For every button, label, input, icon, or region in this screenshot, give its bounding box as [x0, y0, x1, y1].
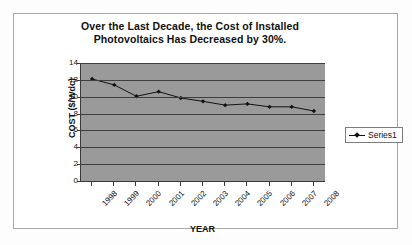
diamond-marker-icon	[349, 132, 365, 139]
x-tick-mark-1998	[91, 182, 92, 186]
x-tick-mark-2005	[246, 182, 247, 186]
gridline-2	[81, 164, 325, 165]
x-tick-mark-2003	[202, 182, 203, 186]
x-tick-label-2001: 2001	[167, 189, 186, 208]
x-tick-mark-2004	[224, 182, 225, 186]
gridline-12	[81, 80, 325, 81]
x-axis-title: YEAR	[80, 224, 325, 234]
y-tick-label-2: 2	[64, 160, 78, 168]
x-tick-mark-2001	[158, 182, 159, 186]
data-point-2001	[156, 89, 160, 93]
x-tick-mark-2007	[291, 182, 292, 186]
data-point-2004	[223, 103, 227, 107]
y-tick-label-8: 8	[64, 110, 78, 118]
data-point-2006	[267, 105, 271, 109]
data-point-2007	[290, 105, 294, 109]
x-tick-label-1999: 1999	[122, 189, 141, 208]
x-tick-label-2007: 2007	[300, 189, 319, 208]
x-tick-label-2003: 2003	[211, 189, 230, 208]
chart-title-line-1: Over the Last Decade, the Cost of Instal…	[40, 20, 340, 33]
plot-area	[80, 63, 325, 182]
x-tick-mark-2008	[313, 182, 314, 186]
plot-wrapper: COST ($/Wdc) 14121086420 199819992000200…	[67, 63, 365, 198]
x-tick-mark-2000	[135, 182, 136, 186]
chart-title-line-2: Photovoltaics Has Decreased by 30%.	[40, 33, 340, 46]
x-tick-mark-1999	[113, 182, 114, 186]
gridline-4	[81, 147, 325, 148]
x-tick-mark-2002	[180, 182, 181, 186]
gridline-10	[81, 97, 325, 98]
y-tick-label-14: 14	[64, 59, 78, 67]
y-tick-label-6: 6	[64, 126, 78, 134]
gridline-14	[81, 63, 325, 64]
x-tick-label-2008: 2008	[322, 189, 341, 208]
chart-legend[interactable]: Series1	[345, 127, 403, 143]
x-tick-label-2006: 2006	[278, 189, 297, 208]
y-tick-label-4: 4	[64, 143, 78, 151]
x-tick-label-2004: 2004	[233, 189, 252, 208]
y-tick-label-12: 12	[64, 76, 78, 84]
chart-title: Over the Last Decade, the Cost of Instal…	[40, 20, 340, 46]
data-point-1999	[112, 83, 116, 87]
legend-label-series1: Series1	[368, 130, 397, 140]
y-tick-label-10: 10	[64, 93, 78, 101]
data-point-2003	[201, 99, 205, 103]
x-tick-mark-2006	[269, 182, 270, 186]
data-point-2005	[245, 102, 249, 106]
chart-frame: Over the Last Decade, the Cost of Instal…	[13, 13, 398, 229]
x-tick-label-2000: 2000	[145, 189, 164, 208]
gridline-8	[81, 114, 325, 115]
x-tick-label-2005: 2005	[256, 189, 275, 208]
gridline-6	[81, 130, 325, 131]
y-tick-label-0: 0	[64, 177, 78, 185]
x-tick-label-2002: 2002	[189, 189, 208, 208]
x-tick-label-1998: 1998	[100, 189, 119, 208]
series1-line	[92, 79, 314, 111]
y-axis-tick-labels: 14121086420	[64, 63, 78, 182]
